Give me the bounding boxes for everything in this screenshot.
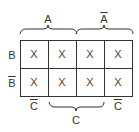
cell-r0-c3: X <box>104 40 132 68</box>
label-c: C <box>70 115 82 126</box>
cell-r1-c0: X <box>20 68 48 96</box>
brace-a <box>20 25 77 34</box>
cell-r0-c1: X <box>48 40 76 68</box>
label-c-bar-right: C <box>112 101 124 112</box>
cell-r0-c0: X <box>20 40 48 68</box>
label-a: A <box>42 14 54 25</box>
label-b-bar: B <box>7 78 17 89</box>
label-b: B <box>7 50 17 61</box>
brace-c <box>49 102 104 111</box>
cell-r0-c2: X <box>76 40 104 68</box>
cell-r1-c3: X <box>104 68 132 96</box>
label-c-bar-left: C <box>28 101 40 112</box>
cell-r1-c1: X <box>48 68 76 96</box>
brace-a-bar <box>76 25 133 34</box>
label-a-bar: A <box>98 14 110 25</box>
cell-r1-c2: X <box>76 68 104 96</box>
